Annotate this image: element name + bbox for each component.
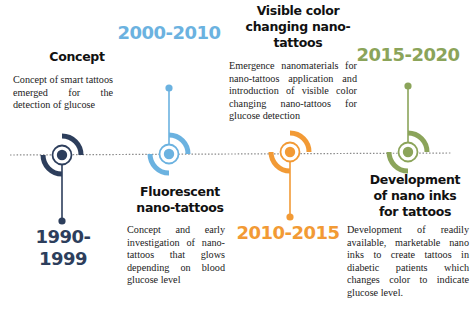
period-label-2015-2020: 2015-2020 — [356, 44, 460, 66]
event-title-line: Fluorescent — [125, 184, 235, 200]
marker-1990-1999 — [43, 136, 81, 225]
event-title-line: Development — [356, 172, 474, 188]
event-title-line: changing nano- — [238, 19, 358, 35]
event-title-line: of nano inks — [356, 188, 474, 204]
event-description-concept: Concept of smart tattoos emerged for the… — [13, 74, 113, 112]
event-title-line: Visible color — [238, 3, 358, 19]
event-description-nano-inks: Development of readily available, market… — [347, 224, 469, 300]
timeline-axis — [10, 153, 452, 155]
event-title-line: tattoos — [238, 35, 358, 51]
marker-2015-2020 — [389, 82, 427, 171]
event-title-visible-color: Visible color changing nano- tattoos — [238, 3, 358, 51]
event-title-line: nano-tattoos — [125, 200, 235, 216]
period-label-1990-1999: 1990-1999 — [12, 226, 114, 270]
marker-2000-2010 — [150, 84, 188, 173]
event-title-line: for tattoos — [356, 204, 474, 220]
marker-2010-2015 — [271, 133, 309, 221]
period-label-2000-2010: 2000-2010 — [117, 22, 221, 44]
period-label-2010-2015: 2010-2015 — [236, 222, 340, 244]
event-title-fluorescent: Fluorescent nano-tattoos — [125, 184, 235, 216]
event-description-fluorescent: Concept and early investigation of nano-… — [127, 224, 225, 287]
event-title-concept: Concept — [18, 49, 136, 65]
event-description-visible-color: Emergence nanomaterials for nano-tattoos… — [229, 60, 357, 123]
event-title-nano-inks: Development of nano inks for tattoos — [356, 172, 474, 220]
